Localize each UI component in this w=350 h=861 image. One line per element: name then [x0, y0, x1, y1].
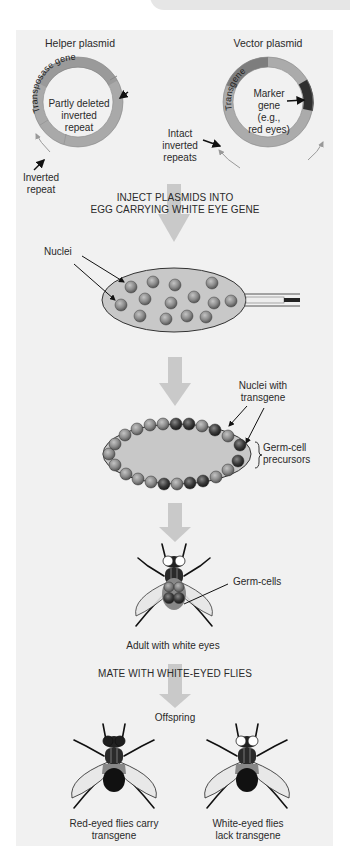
- flow-arrow-2: [159, 357, 191, 406]
- helper-inner-label: Partly deleted inverted repeat: [48, 98, 110, 134]
- offspring-white-eyed-fly: [205, 724, 290, 808]
- red-eyed-offspring-label: Red-eyed flies carry transgene: [64, 818, 164, 842]
- transgene-nuclei-arrow-2: [246, 408, 264, 443]
- helper-plasmid-title: Helper plasmid: [40, 37, 120, 49]
- label-line: Germ-cell: [263, 442, 319, 454]
- label-line: Red-eyed flies carry: [64, 818, 164, 830]
- germ-precursor-label: Germ-cell precursors: [263, 442, 319, 466]
- vector-plasmid-title: Vector plasmid: [228, 37, 308, 49]
- label-line: Inverted: [18, 172, 64, 184]
- label-line: transgene: [64, 830, 164, 842]
- label-line: repeats: [158, 152, 202, 164]
- intact-repeat-arrow: [203, 140, 220, 146]
- micropipette: [244, 294, 300, 306]
- helper-outer-label: Inverted repeat: [18, 172, 64, 196]
- egg-with-nuclei: [102, 268, 300, 332]
- label-line: red eyes): [244, 124, 294, 136]
- label-line: Partly deleted: [48, 98, 110, 110]
- label-line: inverted: [158, 140, 202, 152]
- nuclei-label: Nuclei: [44, 246, 72, 258]
- offspring-red-eyed-fly: [72, 724, 157, 808]
- helper-direction-arrow: [36, 134, 50, 152]
- inject-step-label: INJECT PLASMIDS INTO EGG CARRYING WHITE …: [60, 192, 290, 216]
- label-line: transgene: [228, 392, 298, 404]
- label-line: repeat: [18, 184, 64, 196]
- label-line: INJECT PLASMIDS INTO: [60, 192, 290, 204]
- adult-fly-illustration: [136, 544, 213, 626]
- vector-outer-label: Intact inverted repeats: [158, 128, 202, 164]
- label-line: Marker: [244, 88, 294, 100]
- transgene-nuclei-arrow-1: [229, 406, 247, 426]
- nuclei-arrow-1: [82, 256, 124, 282]
- label-line: White-eyed flies: [198, 818, 298, 830]
- blastoderm-egg: [103, 418, 251, 490]
- label-line: EGG CARRYING WHITE EYE GENE: [60, 204, 290, 216]
- label-line: lack transgene: [198, 830, 298, 842]
- label-line: Intact: [158, 128, 202, 140]
- mate-step-label: MATE WITH WHITE-EYED FLIES: [80, 668, 270, 680]
- germ-precursor-brace: [255, 442, 262, 468]
- label-line: repeat: [48, 122, 110, 134]
- label-line: inverted: [48, 110, 110, 122]
- germ-cells-label: Germ-cells: [233, 576, 281, 588]
- vector-direction-arrow-left: [219, 150, 240, 168]
- white-eyed-offspring-label: White-eyed flies lack transgene: [198, 818, 298, 842]
- vector-direction-arrow-right: [308, 142, 323, 160]
- label-line: gene: [244, 100, 294, 112]
- transgene-nuclei-label: Nuclei with transgene: [228, 380, 298, 404]
- helper-arrow-outer: [34, 160, 44, 170]
- nuclei-arrow-2: [74, 264, 115, 300]
- label-line: (e.g.,: [244, 112, 294, 124]
- label-line: Nuclei with: [228, 380, 298, 392]
- adult-fly-label: Adult with white eyes: [113, 640, 233, 652]
- vector-inner-label: Marker gene (e.g., red eyes): [244, 88, 294, 136]
- flow-arrow-3: [159, 503, 191, 542]
- offspring-label: Offspring: [145, 712, 205, 724]
- label-line: precursors: [263, 454, 319, 466]
